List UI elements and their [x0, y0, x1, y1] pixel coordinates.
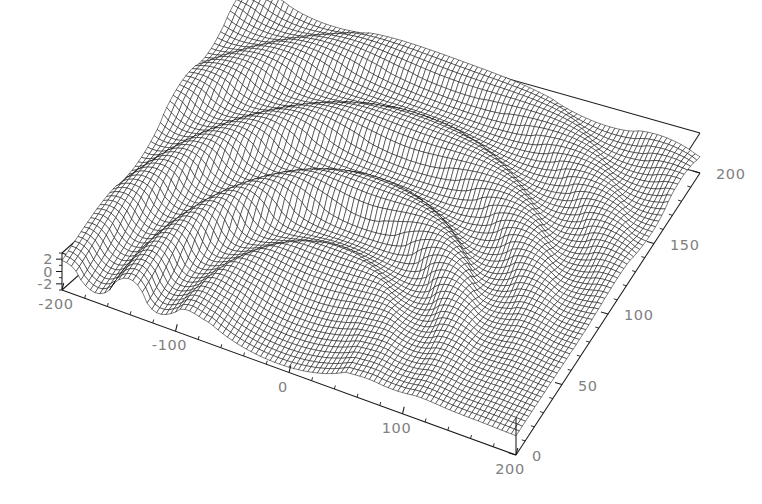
y-tick-minor: [632, 271, 636, 272]
y-tick-minor: [586, 341, 590, 342]
x-tick-label: 200: [495, 461, 524, 477]
y-tick-minor: [669, 214, 673, 215]
x-tick-major: [403, 407, 405, 414]
x-tick-minor: [312, 377, 313, 381]
x-tick-label: -200: [38, 296, 73, 312]
x-tick-minor: [244, 353, 245, 357]
y-tick-minor: [678, 200, 682, 201]
y-tick-minor: [687, 186, 691, 187]
z-tick-label: -2: [37, 276, 53, 292]
y-tick-label: 150: [670, 237, 699, 253]
x-tick-label: 100: [382, 420, 411, 436]
y-tick-minor: [549, 398, 553, 399]
x-tick-minor: [85, 295, 86, 299]
y-tick-minor: [531, 426, 535, 427]
x-tick-label: -100: [152, 337, 187, 353]
x-tick-minor: [107, 303, 108, 307]
y-tick-label: 100: [624, 307, 653, 323]
x-tick-minor: [266, 361, 267, 365]
y-tick-label: 200: [716, 166, 745, 182]
y-tick-major: [601, 312, 608, 314]
x-tick-minor: [153, 320, 154, 324]
x-tick-minor: [380, 402, 381, 406]
y-tick-minor: [540, 412, 544, 413]
x-tick-minor: [471, 435, 472, 439]
y-tick-minor: [660, 228, 664, 229]
y-tick-minor: [568, 369, 572, 370]
x-tick-minor: [425, 419, 426, 423]
y-tick-major: [647, 241, 654, 243]
y-tick-minor: [595, 327, 599, 328]
x-tick-minor: [448, 427, 449, 431]
y-tick-minor: [641, 257, 645, 258]
x-tick-minor: [198, 336, 199, 340]
y-tick-label: 50: [578, 378, 598, 394]
y-tick-minor: [522, 440, 526, 441]
y-tick-minor: [577, 355, 581, 356]
plot-canvas: -200-100010020005010015020020-2: [0, 0, 762, 504]
surface-mesh: [62, 0, 700, 436]
y-tick-minor: [623, 285, 627, 286]
x-tick-minor: [221, 344, 222, 348]
y-tick-major: [693, 171, 700, 173]
x-tick-minor: [334, 386, 335, 390]
y-tick-minor: [614, 299, 618, 300]
x-tick-minor: [493, 443, 494, 447]
x-tick-label: 0: [278, 379, 288, 395]
y-tick-major: [555, 382, 562, 384]
x-tick-minor: [357, 394, 358, 398]
y-tick-label: 0: [532, 448, 542, 464]
x-tick-major: [176, 324, 178, 331]
surface-plot-figure: -200-100010020005010015020020-2: [0, 0, 762, 504]
x-tick-minor: [130, 311, 131, 315]
